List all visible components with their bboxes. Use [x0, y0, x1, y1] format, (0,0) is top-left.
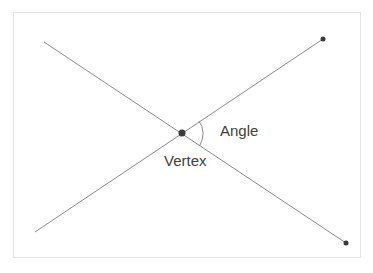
- vertex-point: [179, 130, 186, 137]
- angle-label: Angle: [220, 122, 258, 139]
- vertex-label: Vertex: [164, 152, 207, 169]
- angle-arc: [199, 121, 203, 145]
- angle-diagram: [0, 0, 373, 273]
- line-2: [44, 42, 346, 243]
- line-1: [35, 39, 323, 232]
- endpoint-ray1: [321, 37, 326, 42]
- endpoint-ray2: [344, 241, 349, 246]
